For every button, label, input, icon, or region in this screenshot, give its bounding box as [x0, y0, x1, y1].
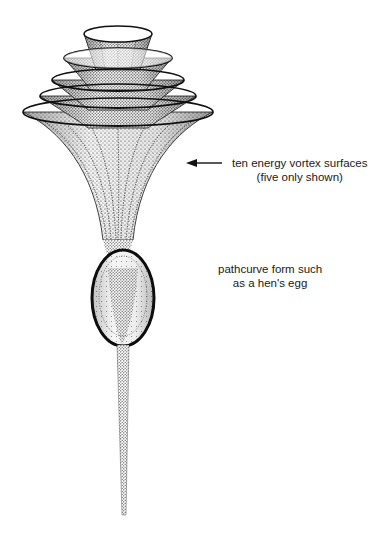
vortex-surfaces-label: ten energy vortex surfaces (five only sh… [232, 156, 368, 184]
vortex-label-line1: ten energy vortex surfaces [232, 156, 368, 170]
pointer-arrow [186, 159, 222, 167]
vortex-surface-5 [23, 112, 213, 240]
egg-form-label: pathcurve form such as a hen's egg [218, 262, 322, 290]
egg-form [92, 250, 154, 346]
vortex-label-line2: (five only shown) [232, 170, 368, 184]
egg-label-line2: as a hen's egg [218, 276, 322, 290]
egg-label-line1: pathcurve form such [218, 262, 322, 276]
rim-interiors [64, 48, 172, 68]
stem [117, 345, 129, 515]
